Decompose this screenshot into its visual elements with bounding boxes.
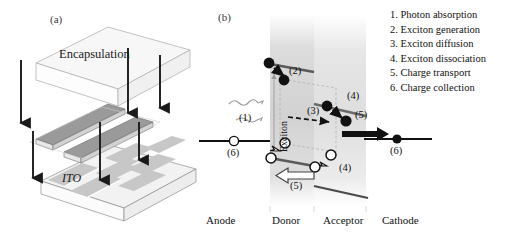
ito-label: ITO — [62, 172, 81, 184]
panel-b-letter: (b) — [218, 12, 231, 23]
figure-root: (a) Encapsulation ITO — [0, 0, 528, 247]
step-marker-4-hole: (4) — [339, 163, 351, 174]
hole-transport — [266, 153, 276, 163]
step-marker-3: (3) — [307, 106, 319, 117]
exciton-label: Exciton — [279, 121, 289, 152]
electron-interface — [322, 101, 333, 112]
legend-item-4: 4. Exciton dissociation — [390, 52, 528, 67]
legend-item-5: 5. Charge transport — [390, 66, 528, 81]
step-marker-6-cathode: (6) — [390, 146, 402, 157]
axis-label-donor: Donor — [272, 215, 300, 226]
axis-label-acceptor: Acceptor — [323, 215, 363, 226]
step-marker-5-holes: (5) — [290, 181, 302, 192]
axis-label-anode: Anode — [206, 215, 235, 226]
legend-item-2: 2. Exciton generation — [390, 23, 528, 38]
electron-acceptor-lumo — [340, 115, 351, 126]
panel-a-drawing — [0, 0, 200, 247]
hole-interface — [326, 150, 336, 160]
legend-item-3: 3. Exciton diffusion — [390, 37, 528, 52]
panel-a-device-stack: (a) Encapsulation ITO — [0, 0, 200, 247]
encapsulation-label: Encapsulation — [59, 48, 130, 61]
step-marker-1: (1) — [239, 113, 251, 124]
anode-level — [199, 136, 270, 145]
step-marker-2: (2) — [289, 66, 301, 77]
legend-item-6: 6. Charge collection — [390, 81, 528, 96]
process-legend: 1. Photon absorption 2. Exciton generati… — [390, 8, 528, 96]
electron-donor-lumo-top — [264, 58, 275, 69]
step-marker-4-electron: (4) — [347, 91, 359, 102]
hole-donor-homo — [310, 162, 320, 172]
step-marker-6-anode: (6) — [227, 148, 239, 159]
axis-label-cathode: Cathode — [382, 215, 419, 226]
step-marker-5-electrons: (5) — [355, 110, 367, 121]
legend-item-1: 1. Photon absorption — [390, 8, 528, 23]
electron-exciton — [279, 75, 290, 86]
encapsulation-slab — [36, 27, 190, 106]
panel-a-letter: (a) — [50, 14, 62, 25]
